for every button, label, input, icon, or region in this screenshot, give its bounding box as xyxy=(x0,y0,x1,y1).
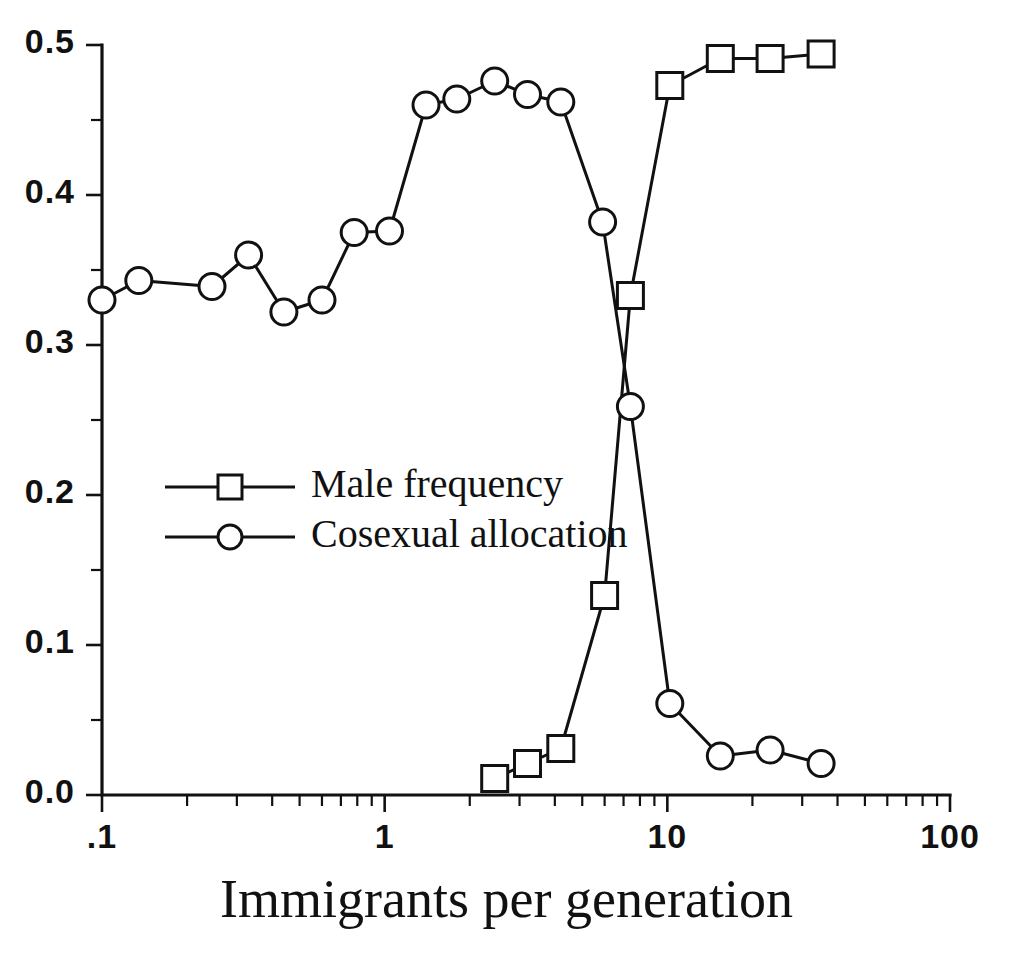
marker-circle xyxy=(617,394,643,420)
x-tick-label: 10 xyxy=(587,817,747,856)
marker-circle xyxy=(548,89,574,115)
marker-circle xyxy=(199,274,225,300)
chart-figure: 0.00.10.20.30.40.5 .1110100 Male frequen… xyxy=(0,0,1013,955)
marker-square xyxy=(592,583,618,609)
marker-circle xyxy=(89,287,115,313)
marker-circle xyxy=(444,86,470,112)
data-series xyxy=(89,41,834,792)
x-tick-label: .1 xyxy=(22,817,182,856)
marker-circle xyxy=(341,220,367,246)
marker-square xyxy=(657,73,683,99)
marker-square xyxy=(757,46,783,72)
marker-circle xyxy=(271,299,297,325)
marker-circle xyxy=(413,92,439,118)
marker-square xyxy=(808,41,834,67)
legend-marker-square xyxy=(218,475,242,499)
marker-circle xyxy=(757,737,783,763)
y-tick-label: 0.5 xyxy=(0,22,75,61)
marker-circle xyxy=(377,218,403,244)
marker-circle xyxy=(808,751,834,777)
marker-circle xyxy=(236,242,262,268)
legend-label-1: Cosexual allocation xyxy=(311,510,628,557)
legend-label-0: Male frequency xyxy=(311,460,563,507)
axes xyxy=(86,45,950,812)
x-tick-label: 1 xyxy=(305,817,465,856)
y-tick-label: 0.1 xyxy=(0,622,75,661)
y-tick-label: 0.4 xyxy=(0,172,75,211)
y-tick-label: 0.2 xyxy=(0,472,75,511)
marker-square xyxy=(617,283,643,309)
y-tick-label: 0.3 xyxy=(0,322,75,361)
y-tick-label: 0.0 xyxy=(0,772,75,811)
legend-marker-circle xyxy=(218,525,242,549)
legend-symbols xyxy=(165,475,295,549)
series-line-0 xyxy=(495,54,821,779)
marker-circle xyxy=(309,287,335,313)
marker-circle xyxy=(657,691,683,717)
series-line-1 xyxy=(102,81,821,764)
marker-circle xyxy=(707,743,733,769)
marker-square xyxy=(482,766,508,792)
marker-circle xyxy=(590,209,616,235)
marker-square xyxy=(707,46,733,72)
marker-square xyxy=(515,751,541,777)
marker-square xyxy=(548,736,574,762)
marker-circle xyxy=(126,268,152,294)
x-axis-title: Immigrants per generation xyxy=(0,868,1013,930)
x-tick-label: 100 xyxy=(870,817,1013,856)
marker-circle xyxy=(482,68,508,94)
marker-circle xyxy=(515,82,541,108)
axis-spine xyxy=(102,45,950,795)
